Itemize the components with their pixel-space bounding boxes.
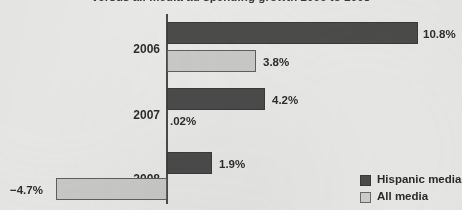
bar-hispanic-2007 [167,88,265,110]
bar-hispanic-2006 [167,22,418,44]
bar-value-allmedia-2008: −4.7% [10,185,43,197]
legend-label-all-media: All media [377,191,428,203]
bar-value-hispanic-2008: 1.9% [219,159,245,171]
legend-label-hispanic-media: Hispanic media [377,174,461,186]
light-swatch-icon [360,192,371,203]
legend-item-all-media: All media [360,190,461,204]
bar-value-allmedia-2007: .02% [170,116,196,128]
bar-value-allmedia-2006: 3.8% [263,57,289,69]
bar-value-hispanic-2007: 4.2% [272,95,298,107]
year-label-2006: 2006 [108,43,160,55]
chart-figure: versus all media ad spending growth 2006… [0,0,462,210]
bar-allmedia-2006 [167,50,256,72]
legend-item-hispanic-media: Hispanic media [360,173,461,187]
bar-value-hispanic-2006: 10.8% [423,29,456,41]
dark-swatch-icon [360,175,371,186]
bar-allmedia-2008 [56,178,167,200]
bar-hispanic-2008 [167,152,212,174]
year-label-2007: 2007 [108,109,160,121]
chart-legend: Hispanic media All media [360,173,461,207]
